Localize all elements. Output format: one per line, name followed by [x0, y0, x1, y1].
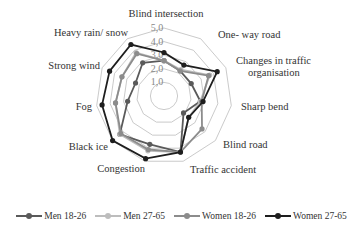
legend-line-marker-icon — [95, 211, 121, 221]
legend-line-marker-icon — [174, 211, 200, 221]
legend-item-women-18-26: Women 18-26 — [174, 211, 256, 221]
data-point — [181, 63, 186, 68]
tick-label: 1,0 — [151, 76, 164, 87]
data-point — [140, 60, 145, 65]
data-point — [134, 51, 139, 56]
data-point — [181, 110, 186, 115]
legend-item-women-27-65: Women 27-65 — [265, 211, 347, 221]
data-point — [133, 80, 138, 85]
data-point — [178, 68, 183, 73]
data-point — [186, 115, 191, 120]
data-point — [143, 156, 148, 161]
legend-label: Women 18-26 — [202, 211, 256, 221]
legend-label: Men 18-26 — [44, 211, 86, 221]
data-point — [161, 58, 166, 63]
tick-label: 2,0 — [151, 63, 164, 74]
category-label: Strong wind — [48, 60, 100, 71]
legend: Men 18-26 Men 27-65 Women 18-26 Women 27… — [0, 206, 363, 226]
data-point — [146, 147, 151, 152]
category-label: Sharp bend — [241, 101, 289, 112]
tick-label: 4,0 — [151, 36, 164, 47]
category-label: Traffic accident — [190, 164, 256, 175]
data-point — [147, 142, 152, 147]
data-point — [118, 131, 123, 136]
data-point — [107, 69, 112, 74]
legend-item-men-27-65: Men 27-65 — [95, 211, 165, 221]
legend-label: Men 27-65 — [123, 211, 165, 221]
data-point — [128, 42, 133, 47]
category-label: Blind road — [223, 139, 268, 150]
category-label: Changes in trafficorganisation — [236, 55, 311, 78]
category-label: Blind intersection — [129, 8, 205, 19]
category-label: Black ice — [69, 141, 109, 152]
data-point — [99, 102, 104, 107]
legend-line-marker-icon — [265, 211, 291, 221]
tick-label: 5,0 — [151, 22, 164, 33]
radial-tick-labels: 1,02,03,04,05,0 — [151, 22, 164, 87]
data-point — [113, 100, 118, 105]
data-point — [189, 81, 194, 86]
category-label: One- way road — [218, 29, 281, 40]
data-point — [206, 73, 211, 78]
data-point — [110, 138, 115, 143]
data-point — [178, 150, 183, 155]
data-point — [199, 126, 204, 131]
data-point — [215, 69, 220, 74]
legend-label: Women 27-65 — [293, 211, 347, 221]
data-point — [200, 99, 205, 104]
category-label: Congestion — [97, 163, 146, 174]
category-label: Fog — [76, 101, 93, 112]
legend-item-men-18-26: Men 18-26 — [16, 211, 86, 221]
data-point — [119, 74, 124, 79]
data-point — [125, 99, 130, 104]
radar-chart: 1,02,03,04,05,0 Blind intersectionOne- w… — [0, 0, 363, 200]
legend-line-marker-icon — [16, 211, 42, 221]
category-label: Heavy rain/ snow — [54, 27, 128, 38]
data-point — [161, 50, 166, 55]
